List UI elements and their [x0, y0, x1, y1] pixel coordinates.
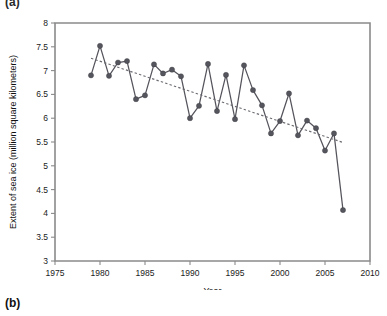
y-axis-tick-label: 3.5 — [36, 232, 48, 242]
data-point — [115, 60, 120, 65]
data-point — [322, 148, 327, 153]
y-axis-tick-label: 6 — [43, 113, 48, 123]
data-point — [205, 61, 210, 66]
x-axis-tick-label: 1980 — [91, 268, 110, 278]
y-axis-title: Extent of sea ice (million square kilome… — [8, 55, 18, 229]
x-axis-tick-label: 1985 — [136, 268, 155, 278]
chart-plot-svg: 33.544.555.566.577.58 197519801985199019… — [0, 10, 387, 290]
data-point — [214, 108, 219, 113]
data-point — [88, 73, 93, 78]
data-point — [331, 131, 336, 136]
x-axis-tick-label: 1995 — [226, 268, 245, 278]
figure-container: (a) 33.544.555.566.577.58 19751980198519… — [0, 0, 387, 316]
data-point — [178, 74, 183, 79]
data-point — [97, 43, 102, 48]
x-axis-tick-label: 2005 — [316, 268, 335, 278]
data-point — [160, 71, 165, 76]
data-point — [106, 73, 111, 78]
y-axis-tick-label: 4 — [43, 208, 48, 218]
panel-label-b: (b) — [5, 296, 20, 310]
x-axis-tick-label: 2000 — [271, 268, 290, 278]
y-axis-tick-label: 7.5 — [36, 42, 48, 52]
x-axis-ticks: 19751980198519901995200020052010 — [46, 261, 380, 278]
plot-frame-path — [55, 23, 370, 261]
data-point — [286, 91, 291, 96]
y-axis-tick-label: 5.5 — [36, 137, 48, 147]
data-point — [232, 117, 237, 122]
y-axis-tick-label: 8 — [43, 18, 48, 28]
data-point — [259, 103, 264, 108]
panel-label-a: (a) — [5, 0, 20, 9]
sea-ice-extent-chart: 33.544.555.566.577.58 197519801985199019… — [0, 10, 387, 290]
x-axis-tick-label: 1990 — [181, 268, 200, 278]
data-point — [268, 131, 273, 136]
data-point — [151, 62, 156, 67]
y-axis-tick-label: 7 — [43, 66, 48, 76]
y-axis-ticks: 33.544.555.566.577.58 — [36, 18, 55, 266]
data-point — [187, 116, 192, 121]
x-axis-tick-label: 2010 — [361, 268, 380, 278]
data-point — [340, 207, 345, 212]
plot-frame — [55, 23, 370, 261]
data-point — [223, 72, 228, 77]
y-axis-tick-label: 6.5 — [36, 89, 48, 99]
x-axis-tick-label: 1975 — [46, 268, 65, 278]
y-axis-tick-label: 3 — [43, 256, 48, 266]
y-axis-tick-label: 4.5 — [36, 185, 48, 195]
y-axis-tick-label: 5 — [43, 161, 48, 171]
data-point — [313, 126, 318, 131]
data-point — [250, 88, 255, 93]
sea-ice-data-points — [88, 43, 345, 212]
x-axis-title: Year — [203, 286, 221, 290]
data-point — [169, 67, 174, 72]
data-point — [133, 97, 138, 102]
data-point — [196, 103, 201, 108]
data-point — [304, 118, 309, 123]
data-point — [241, 63, 246, 68]
data-point — [124, 58, 129, 63]
data-point — [295, 133, 300, 138]
data-point — [142, 93, 147, 98]
sea-ice-series-line — [91, 46, 343, 210]
data-point — [277, 118, 282, 123]
